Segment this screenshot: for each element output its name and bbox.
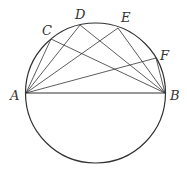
point-label-e: E: [120, 10, 131, 25]
inscribed-angles-diagram: ABCDEF: [0, 0, 187, 175]
point-label-c: C: [42, 23, 52, 38]
segment-AF: [26, 58, 156, 93]
point-label-d: D: [74, 7, 86, 22]
segment-AE: [26, 28, 118, 93]
point-label-a: A: [9, 88, 19, 103]
point-label-b: B: [169, 88, 180, 103]
point-label-f: F: [159, 48, 170, 63]
